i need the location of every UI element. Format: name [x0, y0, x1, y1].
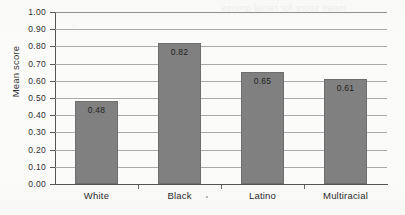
y-axis-tick-label: 0.00: [0, 179, 46, 189]
bar-value-label: 0.61: [325, 83, 366, 93]
x-axis-tick-mark: [221, 185, 222, 189]
x-axis-category-label: Latino: [221, 190, 304, 201]
y-axis-tick-label: 0.60: [0, 76, 46, 86]
y-axis-tick-label: 1.00: [0, 7, 46, 17]
y-axis-tick-label: 0.40: [0, 110, 46, 120]
plot-area: 0.480.820.650.61: [55, 12, 387, 184]
gridline: [55, 64, 387, 65]
gridline: [55, 29, 387, 30]
y-axis-tick-label: 0.70: [0, 59, 46, 69]
bar-value-label: 0.82: [159, 47, 200, 57]
x-axis-tick-mark: [138, 185, 139, 189]
bar-value-label: 0.48: [76, 105, 117, 115]
bar: 0.65: [241, 72, 284, 184]
x-axis-category-label: Black: [138, 190, 221, 201]
x-axis-tick-mark: [304, 185, 305, 189]
y-axis-tick-label: 0.30: [0, 127, 46, 137]
bar-value-label: 0.65: [242, 76, 283, 86]
y-axis-tick-label: 0.50: [0, 93, 46, 103]
scan-speck: [206, 196, 208, 198]
bar: 0.61: [324, 79, 367, 184]
y-axis-tick-label: 0.80: [0, 41, 46, 51]
y-axis-tick-label: 0.20: [0, 145, 46, 155]
x-axis-category-label: White: [55, 190, 138, 201]
gridline: [55, 12, 387, 13]
bar: 0.48: [75, 101, 118, 184]
x-axis-category-label: Multiracial: [304, 190, 387, 201]
gridline: [55, 46, 387, 47]
bar: 0.82: [158, 43, 201, 184]
chart-figure: mean score for racial groups Mean score …: [0, 0, 405, 215]
gridline: [55, 184, 387, 185]
y-axis-tick-label: 0.10: [0, 162, 46, 172]
y-axis-tick-label: 0.90: [0, 24, 46, 34]
